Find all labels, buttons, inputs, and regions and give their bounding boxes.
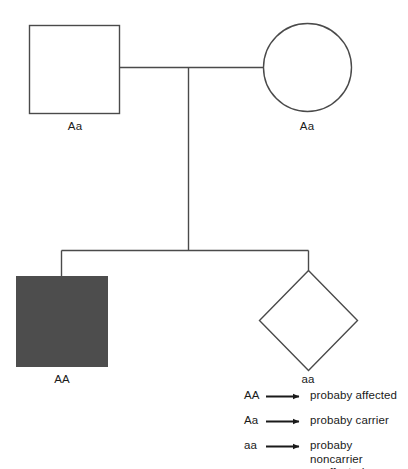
genotype-label-father: Aa (45, 120, 105, 132)
legend-description-Aa: probaby carrier (310, 414, 389, 428)
legend-row-AA: AA probaby affected (244, 388, 408, 413)
legend-genotype-Aa: Aa (244, 414, 266, 426)
legend-genotype-AA: AA (244, 389, 266, 401)
legend-row-Aa: Aa probaby carrier (244, 413, 408, 438)
legend-description-aa: probaby noncarrier unaffected (310, 439, 408, 469)
legend-description-AA: probaby affected (310, 389, 397, 403)
individual-mother-circle (264, 24, 352, 112)
right-arrow-icon (265, 391, 309, 402)
legend-genotype-aa: aa (244, 439, 266, 451)
legend: AA probaby affected Aa probaby carrier a… (244, 388, 408, 469)
genotype-label-child-1: AA (32, 373, 92, 385)
right-arrow-icon (265, 441, 309, 452)
legend-description-aa-line1: probaby noncarrier (310, 439, 363, 465)
pedigree-diagram: Aa Aa AA aa AA probaby affected Aa proba… (0, 0, 408, 469)
legend-row-aa: aa probaby noncarrier unaffected (244, 438, 408, 469)
individual-child-1-square-affected (17, 277, 108, 367)
right-arrow-icon (265, 416, 309, 427)
individual-father-square (30, 26, 120, 114)
genotype-label-child-2: aa (278, 373, 338, 385)
individual-child-2-diamond (260, 271, 358, 371)
genotype-label-mother: Aa (277, 120, 337, 132)
